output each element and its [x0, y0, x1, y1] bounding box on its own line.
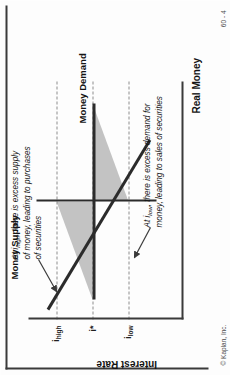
annotation-excess-demand-sub: low	[146, 206, 153, 215]
annotation-excess-demand-b: , there is excess demand for	[142, 103, 151, 206]
annotation-excess-supply-a: At i	[10, 247, 19, 259]
y-tick-i-low-sub: low	[127, 325, 134, 336]
annotation-excess-supply-sub: high	[14, 235, 21, 247]
money-demand-label: Money Demand	[76, 53, 87, 123]
annotation-excess-supply: At ihigh, there is excess supplyof money…	[10, 109, 43, 259]
money-supply-vertical-line	[36, 199, 156, 201]
y-tick-i-high: ihigh	[50, 325, 62, 341]
y-axis-title: Interest Rate	[96, 358, 157, 369]
annotation-excess-demand-a: At i	[142, 215, 151, 227]
footer-page-number: 60 - 4	[219, 10, 226, 27]
footer-copyright: © Kaplan, Inc.	[219, 324, 226, 365]
slide-canvas: Interest Rate ihigh i* ilow Money Supply…	[0, 0, 230, 375]
x-axis-line	[181, 81, 183, 319]
y-tick-i-high-sub: high	[55, 325, 62, 339]
annotation-excess-demand-c: money, leading to sales of securities	[154, 96, 163, 227]
y-tick-i-low: ilow	[122, 325, 134, 338]
y-tick-i-star: i*	[87, 325, 97, 331]
annotation-excess-demand: At ilow, there is excess demand formoney…	[142, 69, 165, 227]
annotation-excess-supply-d: of securities	[33, 215, 42, 259]
slide-rotation-wrapper: Interest Rate ihigh i* ilow Money Supply…	[0, 0, 230, 375]
x-axis-title: Real Money	[190, 57, 201, 113]
y-axis-line	[28, 317, 183, 319]
annotation-excess-supply-b: , there is excess supply	[10, 150, 19, 235]
annotation-excess-supply-c: of money, leading to purchases	[22, 146, 31, 259]
